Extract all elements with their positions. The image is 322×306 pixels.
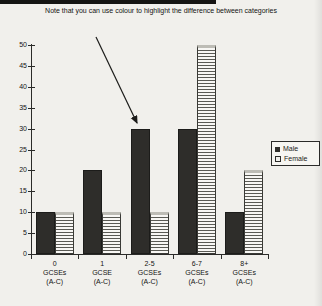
bar-female-3 <box>197 45 216 254</box>
y-tick-label: 5 <box>4 229 27 237</box>
x-category-label: 6-7 GCSEs (A-C) <box>173 259 220 286</box>
bar-male-0 <box>36 212 55 254</box>
y-tick-label: 45 <box>4 62 27 70</box>
x-category-label: 0 GCSEs (A-C) <box>31 259 78 286</box>
bar-female-1 <box>102 212 121 254</box>
legend-label: Female <box>284 155 307 163</box>
y-tick <box>28 191 35 192</box>
y-tick-label: 40 <box>4 83 27 91</box>
y-tick <box>28 45 35 46</box>
bar-male-2 <box>131 129 150 254</box>
legend-item-male: Male <box>275 145 317 153</box>
bar-male-3 <box>178 129 197 254</box>
legend-swatch-male <box>275 147 280 152</box>
bar-male-4 <box>225 212 244 254</box>
y-tick <box>28 87 35 88</box>
legend-label: Male <box>283 145 298 153</box>
x-tick <box>268 255 269 259</box>
y-tick <box>28 233 35 234</box>
bar-female-4 <box>244 170 263 254</box>
bar-female-2 <box>150 212 169 254</box>
legend: MaleFemale <box>271 141 320 166</box>
y-tick-label: 0 <box>4 250 27 258</box>
y-tick-label: 15 <box>4 187 27 195</box>
y-tick-label: 25 <box>4 146 27 154</box>
bar-female-0 <box>55 212 74 254</box>
x-category-label: 2-5 GCSEs (A-C) <box>126 259 173 286</box>
bar-male-1 <box>83 170 102 254</box>
legend-item-female: Female <box>275 155 317 163</box>
y-tick-label: 35 <box>4 104 27 112</box>
x-axis <box>31 254 269 255</box>
scanned-chart-page: Note that you can use colour to highligh… <box>0 0 322 306</box>
y-tick <box>28 212 35 213</box>
y-tick-label: 50 <box>4 41 27 49</box>
y-tick-label: 10 <box>4 208 27 216</box>
x-category-label: 1 GCSE (A-C) <box>78 259 125 286</box>
y-tick <box>28 66 35 67</box>
legend-swatch-female <box>275 156 281 162</box>
y-tick-label: 20 <box>4 166 27 174</box>
y-tick-label: 30 <box>4 125 27 133</box>
y-tick <box>28 108 35 109</box>
y-tick <box>28 170 35 171</box>
y-tick <box>28 129 35 130</box>
x-category-label: 8+ GCSEs (A-C) <box>221 259 268 286</box>
y-tick <box>28 150 35 151</box>
